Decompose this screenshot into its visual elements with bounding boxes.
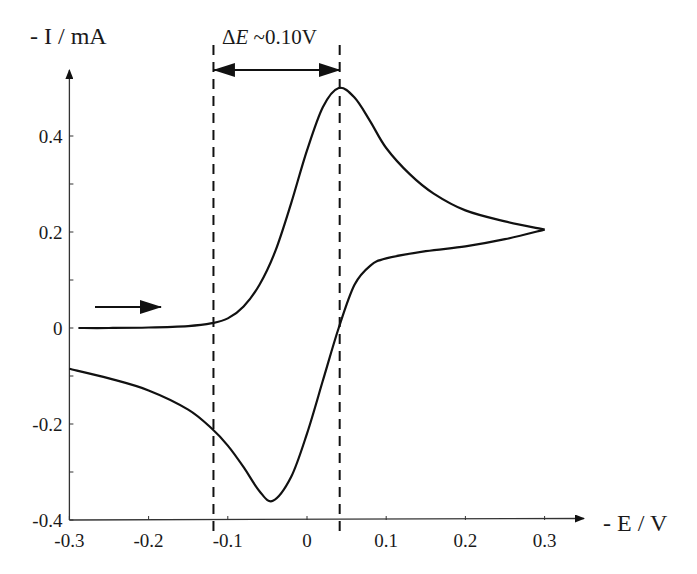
dashed-guides — [213, 45, 339, 537]
x-tick-label: 0.3 — [533, 530, 557, 551]
x-tick-label: 0.1 — [374, 530, 398, 551]
axes — [69, 70, 584, 520]
x-tick-label: 0 — [302, 530, 312, 551]
x-tick-label: -0.2 — [134, 530, 164, 551]
x-axis-line — [69, 519, 584, 521]
y-tick-label: 0.4 — [39, 126, 63, 147]
y-axis-title: - I / mA — [30, 23, 107, 49]
y-tick-label: -0.2 — [32, 414, 62, 435]
cv-curves — [69, 88, 544, 502]
x-tick-label: -0.3 — [54, 530, 84, 551]
x-tick-label: -0.1 — [213, 530, 243, 551]
cyclic-voltammogram-chart: -0.3-0.2-0.100.10.20.3-0.4-0.200.20.4 - … — [0, 0, 697, 574]
x-axis-title: - E / V — [603, 510, 668, 536]
delta-e-label: ΔE ~0.10V — [222, 25, 317, 49]
delta-symbol: Δ — [222, 25, 236, 49]
y-tick-label: -0.4 — [32, 510, 63, 531]
reverse-scan-curve — [69, 230, 544, 502]
y-tick-label: 0.2 — [39, 222, 63, 243]
delta-variable: E — [235, 25, 249, 49]
y-tick-label: 0 — [53, 318, 63, 339]
forward-scan-curve — [78, 88, 544, 328]
x-tick-label: 0.2 — [454, 530, 478, 551]
annotations — [95, 70, 340, 307]
delta-value: ~0.10V — [248, 25, 317, 49]
